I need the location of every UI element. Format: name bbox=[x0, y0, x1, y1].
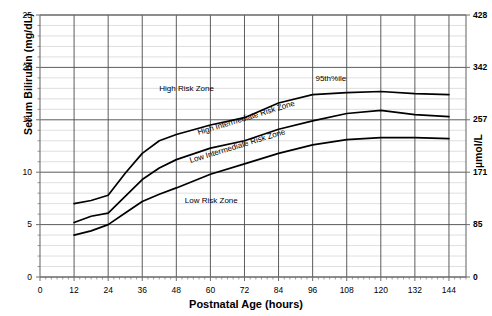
y-tick-label-right: 0 bbox=[473, 272, 492, 282]
x-tick-label: 60 bbox=[196, 285, 224, 295]
y-tick-label: 15 bbox=[6, 114, 32, 124]
y-tick-label-right: 428 bbox=[473, 10, 492, 20]
x-tick-label: 0 bbox=[26, 285, 54, 295]
x-tick-label: 84 bbox=[265, 285, 293, 295]
x-tick-label: 48 bbox=[162, 285, 190, 295]
zone-annotation-4: 95th%ile bbox=[315, 74, 346, 83]
zone-annotation-3: Low Risk Zone bbox=[185, 196, 238, 205]
x-tick-label: 12 bbox=[60, 285, 88, 295]
x-tick-label: 144 bbox=[435, 285, 463, 295]
y-tick-label-right: 342 bbox=[473, 62, 492, 72]
x-tick-label: 24 bbox=[94, 285, 122, 295]
bilirubin-nomogram-chart: Serum Bilirubin (mg/dL) µmol/L Postnatal… bbox=[0, 0, 492, 316]
y-tick-label: 25 bbox=[6, 10, 32, 20]
x-tick-label: 36 bbox=[128, 285, 156, 295]
y-tick-label: 0 bbox=[6, 272, 32, 282]
x-tick-label: 120 bbox=[367, 285, 395, 295]
y-tick-label-right: 85 bbox=[473, 219, 492, 229]
zone-annotation-0: High Risk Zone bbox=[159, 84, 214, 93]
x-tick-label: 132 bbox=[401, 285, 429, 295]
y-tick-label-right: 171 bbox=[473, 167, 492, 177]
plot-area bbox=[0, 0, 492, 316]
y-tick-label-right: 257 bbox=[473, 114, 492, 124]
x-tick-label: 96 bbox=[299, 285, 327, 295]
x-tick-label: 72 bbox=[230, 285, 258, 295]
y-tick-label: 5 bbox=[6, 219, 32, 229]
y-tick-label: 10 bbox=[6, 167, 32, 177]
y-tick-label: 20 bbox=[6, 62, 32, 72]
x-tick-label: 108 bbox=[333, 285, 361, 295]
